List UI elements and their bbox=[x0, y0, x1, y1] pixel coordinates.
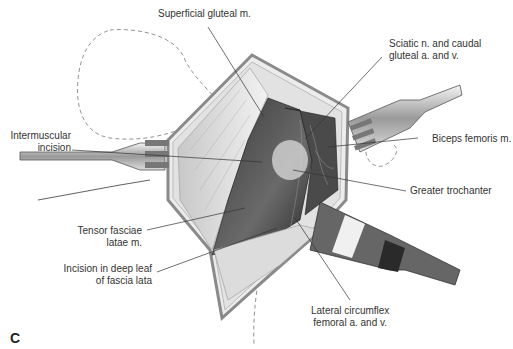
label-lateral-line1: Lateral circumflex bbox=[311, 305, 389, 317]
panel-letter: C bbox=[10, 330, 20, 346]
label-tensor-line1: Tensor fasciae bbox=[60, 225, 142, 237]
retractor-bottom bbox=[310, 202, 460, 285]
label-lateral-circumflex: Lateral circumflex femoral a. and v. bbox=[311, 305, 389, 329]
label-superficial-gluteal: Superficial gluteal m. bbox=[158, 8, 251, 20]
label-sciatic-line1: Sciatic n. and caudal bbox=[389, 38, 481, 50]
label-incision-line2: of fascia lata bbox=[40, 275, 152, 287]
label-incision-line1: Incision in deep leaf bbox=[40, 263, 152, 275]
label-lateral-line2: femoral a. and v. bbox=[311, 317, 389, 329]
label-greater-trochanter: Greater trochanter bbox=[410, 185, 492, 197]
label-intermuscular-incision: Intermuscular incision bbox=[8, 130, 71, 154]
label-intermuscular-line1: Intermuscular bbox=[8, 130, 71, 142]
label-intermuscular-line2: incision bbox=[8, 142, 71, 154]
label-sciatic-line2: gluteal a. and v. bbox=[389, 50, 481, 62]
label-biceps-femoris: Biceps femoris m. bbox=[432, 133, 511, 145]
label-tensor-fasciae-latae: Tensor fasciae latae m. bbox=[60, 225, 142, 249]
label-sciatic-nerve: Sciatic n. and caudal gluteal a. and v. bbox=[389, 38, 481, 62]
label-incision-deep-leaf: Incision in deep leaf of fascia lata bbox=[40, 263, 152, 287]
label-tensor-line2: latae m. bbox=[60, 237, 142, 249]
